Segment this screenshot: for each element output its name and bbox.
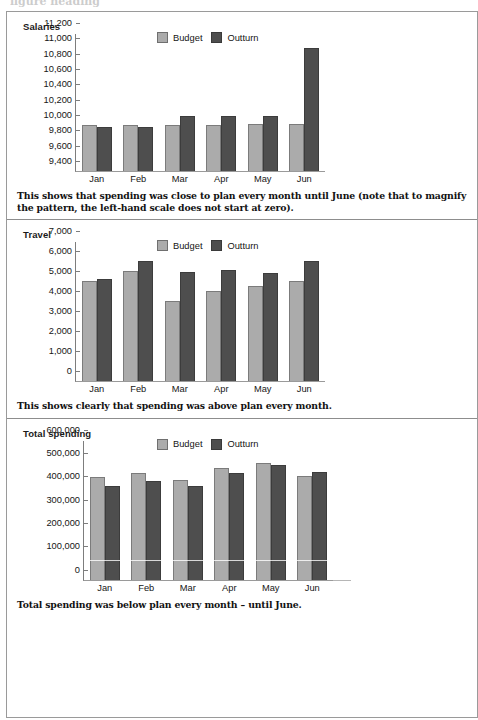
bar-outturn-mar (180, 116, 195, 171)
y-axis-tick-label: 1,000 (49, 346, 72, 356)
bar-budget-jun (289, 281, 304, 382)
bar-outturn-may (271, 465, 286, 580)
bar-budget-may (248, 286, 263, 381)
bar-group (159, 242, 201, 381)
chart-travel: BudgetOutturn01,0002,0003,0004,0005,0006… (25, 242, 467, 399)
x-axis-labels: JanFebMarAprMayJun (84, 580, 333, 593)
y-axis-tick-label: 300,000 (46, 495, 80, 505)
y-axis-tick-label: 0 (67, 366, 72, 376)
x-axis-tick-label: Mar (167, 583, 209, 593)
y-axis-tick-label: 11,200 (44, 18, 72, 28)
bar-group (242, 34, 284, 171)
chart-legend: BudgetOutturn (157, 439, 258, 450)
legend-item-outturn: Outturn (211, 439, 258, 450)
x-axis-tick-label: Mar (159, 384, 201, 394)
bar-budget-mar (165, 125, 180, 171)
x-axis-tick-label: May (242, 384, 284, 394)
legend-swatch-budget-icon (157, 439, 168, 450)
legend-label: Outturn (227, 33, 258, 43)
x-axis-tick-label: Apr (201, 174, 243, 184)
y-axis-tick-label: 9,400 (49, 156, 72, 166)
legend-swatch-outturn-icon (211, 439, 222, 450)
top-bleed-text: figure heading (10, 0, 469, 6)
caption-salaries: This shows that spending was close to pl… (17, 190, 467, 214)
legend-label: Budget (173, 33, 202, 43)
plot-area: 9,4009,6009,80010,00010,20010,40010,6001… (75, 34, 325, 172)
bar-group (76, 242, 118, 381)
y-axis-tick-label: 10,800 (44, 49, 72, 59)
x-axis-overrun (333, 580, 351, 581)
legend-item-outturn: Outturn (211, 240, 258, 251)
x-axis-tick-label: Feb (126, 583, 168, 593)
panel-total-spending: Total spending BudgetOutturn0100,000200,… (7, 418, 477, 611)
plot-area: 01,0002,0003,0004,0005,0006,0007,000JanF… (75, 242, 325, 382)
bar-budget-may (256, 463, 271, 580)
y-axis-tick-label: 10,400 (44, 79, 72, 89)
legend-swatch-outturn-icon (211, 32, 222, 43)
bar-budget-feb (123, 125, 138, 171)
bar-outturn-apr (221, 270, 236, 382)
chart-salaries: BudgetOutturn9,4009,6009,80010,00010,200… (25, 34, 467, 189)
bar-budget-feb (131, 473, 146, 579)
bar-budget-jan (90, 477, 105, 580)
panel-title-travel: Travel (23, 229, 467, 240)
y-axis-tick-label: 400,000 (46, 471, 80, 481)
x-axis-labels: JanFebMarAprMayJun (76, 171, 325, 184)
bar-outturn-feb (138, 127, 153, 171)
bar-outturn-jan (97, 279, 112, 381)
y-axis-tick-label: 5,000 (49, 266, 72, 276)
bar-group (284, 242, 326, 381)
bar-budget-apr (206, 125, 221, 171)
bar-group (118, 34, 160, 171)
caption-total-spending: Total spending was below plan every mont… (17, 599, 467, 611)
legend-swatch-outturn-icon (211, 240, 222, 251)
bar-outturn-jun (312, 472, 327, 580)
legend-swatch-budget-icon (157, 32, 168, 43)
panel-salaries: Salaries BudgetOutturn9,4009,6009,80010,… (7, 12, 477, 214)
bar-outturn-jan (105, 486, 120, 579)
bar-group (201, 34, 243, 171)
x-axis-tick-label: Jan (76, 384, 118, 394)
y-axis-tick-label: 3,000 (49, 306, 72, 316)
y-axis-tick-label: 4,000 (49, 286, 72, 296)
bar-group (118, 242, 160, 381)
x-axis-tick-label: Jun (284, 174, 326, 184)
legend-label: Budget (173, 439, 202, 449)
bar-outturn-jan (97, 127, 112, 171)
bar-group (126, 441, 168, 580)
legend-item-outturn: Outturn (211, 32, 258, 43)
y-axis-tick-label: 10,200 (44, 95, 72, 105)
y-axis-tick-label: 100,000 (46, 541, 80, 551)
legend-item-budget: Budget (157, 240, 202, 251)
y-axis-tick-label: 7,000 (49, 226, 72, 236)
bar-group (250, 441, 292, 580)
bar-group (242, 242, 284, 381)
bar-budget-jan (82, 125, 97, 171)
top-bleed-artifact: figure heading (0, 0, 469, 9)
bar-budget-apr (206, 291, 221, 381)
bar-outturn-jun (304, 261, 319, 382)
x-axis-tick-label: Apr (209, 583, 251, 593)
chart-total-spending: BudgetOutturn0100,000200,000300,000400,0… (25, 441, 467, 598)
bar-outturn-feb (138, 261, 153, 381)
panel-travel: Travel BudgetOutturn01,0002,0003,0004,00… (7, 219, 477, 412)
legend-item-budget: Budget (157, 32, 202, 43)
bar-budget-jun (297, 476, 312, 579)
bar-budget-jan (82, 281, 97, 381)
y-axis-tick-label: 0 (75, 565, 80, 575)
x-axis-tick-label: Mar (159, 174, 201, 184)
legend-item-budget: Budget (157, 439, 202, 450)
bar-budget-feb (123, 271, 138, 381)
bar-group (201, 242, 243, 381)
bar-outturn-may (263, 273, 278, 382)
x-axis-tick-label: Jun (284, 384, 326, 394)
bar-group (284, 34, 326, 171)
y-axis-tick-label: 600,000 (46, 425, 80, 435)
bar-group (159, 34, 201, 171)
x-axis-labels: JanFebMarAprMayJun (76, 381, 325, 394)
bar-outturn-mar (188, 486, 203, 579)
y-axis-tick-label: 9,600 (49, 141, 72, 151)
y-axis-tick-label: 10,000 (44, 110, 72, 120)
x-axis-tick-label: May (242, 174, 284, 184)
panel-title-salaries: Salaries (23, 21, 467, 32)
